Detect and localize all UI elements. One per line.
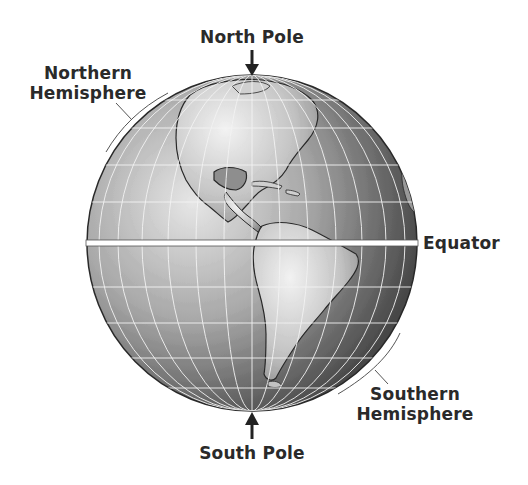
equator-label: Equator — [423, 233, 500, 253]
equator-line — [86, 240, 418, 246]
north-pole-label: North Pole — [192, 27, 312, 47]
southern-hemisphere-label-line2: Hemisphere — [355, 404, 475, 424]
south-pole-arrow — [245, 412, 259, 439]
globe — [80, 75, 430, 411]
southern-hemisphere-label-line1: Southern — [355, 384, 475, 404]
north-pole-arrow — [245, 50, 259, 76]
northern-hemisphere-label: Northern Hemisphere — [28, 63, 148, 103]
northern-hemisphere-label-line1: Northern — [28, 63, 148, 83]
northern-hemisphere-label-line2: Hemisphere — [28, 83, 148, 103]
south-pole-label: South Pole — [192, 443, 312, 463]
southern-hemisphere-label: Southern Hemisphere — [355, 384, 475, 424]
